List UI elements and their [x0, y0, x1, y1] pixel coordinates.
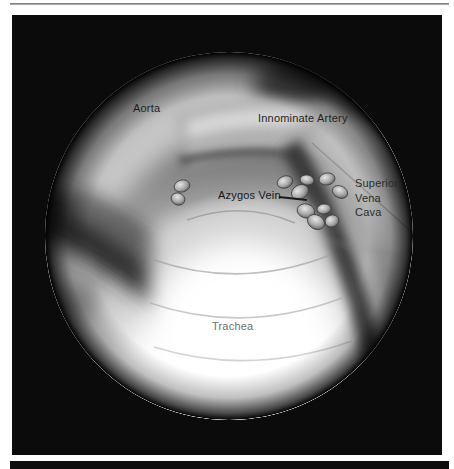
illustration-panel: Aorta Innominate Artery Azygos Vein Supe… [12, 15, 442, 455]
top-rule [10, 3, 449, 5]
label-trachea: Trachea [212, 320, 253, 333]
label-superior-vena-cava: Superior Vena Cava [355, 176, 398, 220]
endoscopic-field [12, 15, 442, 455]
endoscope-view-illustration [12, 15, 442, 455]
scope-vignette [45, 52, 413, 420]
label-svc-line3: Cava [355, 205, 398, 220]
label-innominate-artery: Innominate Artery [258, 112, 348, 125]
figure-page: Aorta Innominate Artery Azygos Vein Supe… [0, 0, 454, 469]
label-aorta: Aorta [133, 102, 160, 115]
label-svc-line2: Vena [355, 191, 398, 206]
label-svc-line1: Superior [355, 176, 398, 191]
bottom-rule-bar [10, 461, 449, 469]
label-azygos-vein: Azygos Vein [218, 189, 281, 202]
